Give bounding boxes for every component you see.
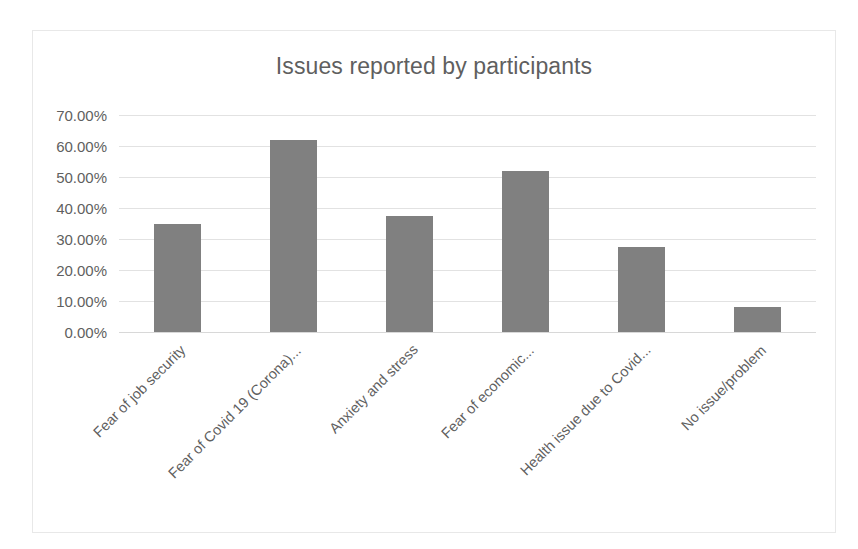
bar[interactable] bbox=[502, 171, 549, 332]
y-axis-tick-label: 0.00% bbox=[64, 324, 107, 341]
gridline bbox=[119, 146, 816, 147]
gridline bbox=[119, 332, 816, 333]
y-axis-tick-label: 10.00% bbox=[56, 293, 107, 310]
y-axis-tick-label: 50.00% bbox=[56, 169, 107, 186]
y-axis-tick-label: 40.00% bbox=[56, 200, 107, 217]
bar[interactable] bbox=[154, 224, 201, 333]
x-axis-tick-label: Health issue due to Covid... bbox=[517, 342, 654, 479]
y-axis-tick-label: 20.00% bbox=[56, 262, 107, 279]
plot-area: 70.00%60.00%50.00%40.00%30.00%20.00%10.0… bbox=[119, 115, 816, 332]
bar[interactable] bbox=[618, 247, 665, 332]
chart-title: Issues reported by participants bbox=[33, 53, 835, 80]
gridline bbox=[119, 301, 816, 302]
gridline bbox=[119, 208, 816, 209]
y-axis-tick-label: 30.00% bbox=[56, 231, 107, 248]
y-axis-tick-label: 70.00% bbox=[56, 107, 107, 124]
gridline bbox=[119, 239, 816, 240]
bar[interactable] bbox=[734, 307, 781, 332]
x-axis-tick-label: Fear of Covid 19 (Corona)... bbox=[165, 342, 304, 481]
gridline bbox=[119, 177, 816, 178]
x-axis-tick-label: No issue/problem bbox=[678, 342, 769, 433]
bar[interactable] bbox=[270, 140, 317, 332]
gridline bbox=[119, 115, 816, 116]
y-axis-tick-label: 60.00% bbox=[56, 138, 107, 155]
bar[interactable] bbox=[386, 216, 433, 332]
x-axis-tick-label: Fear of job security bbox=[90, 342, 189, 441]
gridline bbox=[119, 270, 816, 271]
chart-container: Issues reported by participants 70.00%60… bbox=[32, 30, 836, 533]
x-axis-tick-label: Fear of economic... bbox=[438, 342, 537, 441]
x-axis-tick-label: Anxiety and stress bbox=[326, 342, 421, 437]
